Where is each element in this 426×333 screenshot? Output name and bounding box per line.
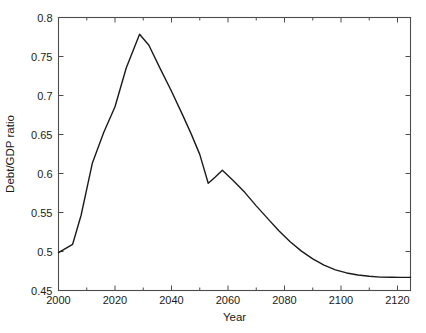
x-axis-title: Year — [223, 311, 246, 323]
y-tick-label: 0.7 — [37, 90, 52, 102]
x-tick-label: 2100 — [329, 294, 353, 306]
x-tick-label: 2060 — [216, 294, 240, 306]
x-tick-label: 2040 — [159, 294, 183, 306]
debt-gdp-line-chart: 2000202020402060208021002120 0.450.50.55… — [0, 0, 426, 333]
y-axis-title: Debt/GDP ratio — [4, 115, 16, 193]
y-tick-label: 0.8 — [37, 12, 52, 24]
y-tick-label: 0.45 — [31, 285, 52, 297]
chart-figure: 2000202020402060208021002120 0.450.50.55… — [0, 0, 426, 333]
y-tick-label: 0.65 — [31, 129, 52, 141]
figure-background — [0, 0, 426, 333]
y-tick-label: 0.75 — [31, 51, 52, 63]
x-tick-label: 2080 — [272, 294, 296, 306]
x-tick-label: 2120 — [385, 294, 409, 306]
x-tick-label: 2020 — [103, 294, 127, 306]
y-tick-label: 0.55 — [31, 207, 52, 219]
y-tick-label: 0.5 — [37, 246, 52, 258]
y-tick-label: 0.6 — [37, 168, 52, 180]
